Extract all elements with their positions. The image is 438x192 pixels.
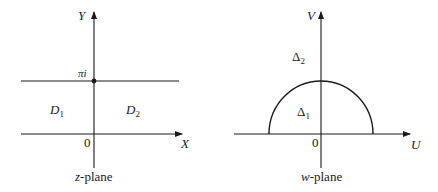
origin-label-w: 0 <box>312 135 319 150</box>
z-plane-caption: z-plane <box>74 169 113 184</box>
w-plane-panel: V U 0 Δ2 Δ1 w-plane <box>234 8 422 184</box>
origin-label: 0 <box>84 135 91 150</box>
pi-i-point <box>92 79 97 84</box>
region-delta2-label: Δ2 <box>292 49 305 66</box>
pi-i-label: πi <box>78 67 87 79</box>
u-axis-label: U <box>411 137 422 152</box>
region-d2-label: D2 <box>125 102 140 119</box>
x-axis-label: X <box>180 136 190 151</box>
conformal-map-diagram: Y X 0 πi D1 D2 z-plane V U 0 Δ2 Δ1 w-pla… <box>0 0 438 192</box>
region-delta1-label: Δ1 <box>297 104 310 121</box>
z-plane-panel: Y X 0 πi D1 D2 z-plane <box>21 8 190 184</box>
v-axis-label: V <box>307 8 317 23</box>
w-plane-caption: w-plane <box>301 169 342 184</box>
y-axis-label: Y <box>78 8 87 23</box>
region-d1-label: D1 <box>49 102 64 119</box>
